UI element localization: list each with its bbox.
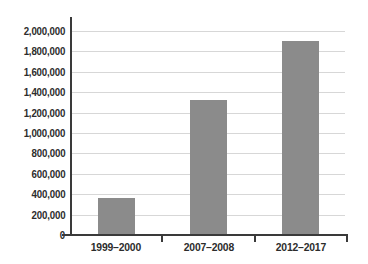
x-tick-label-text: 2012–2017 (276, 241, 326, 254)
x-tick-label: 2012–2017 (256, 241, 346, 254)
y-tick-label: 2,000,000 (0, 25, 65, 37)
y-tick-label: 1,000,000 (0, 127, 65, 139)
x-tick-label-text: 1999–2000 (91, 241, 141, 254)
x-axis-tick (346, 236, 348, 242)
y-tick-label: 800,000 (0, 147, 65, 159)
bar (98, 198, 135, 235)
y-tick-label-text: 600,000 (31, 168, 65, 180)
x-axis-tick (254, 236, 256, 242)
x-axis-tick (161, 236, 163, 242)
bar (282, 41, 319, 235)
y-tick-label-text: 1,600,000 (24, 66, 65, 78)
x-tick-label: 2007–2008 (164, 241, 254, 254)
y-tick-label-text: 800,000 (31, 147, 65, 159)
y-tick-label: 600,000 (0, 168, 65, 180)
y-tick-label-text: 1,000,000 (24, 127, 65, 139)
y-tick-label: 1,800,000 (0, 45, 65, 57)
x-axis-line (62, 234, 348, 236)
gridline (72, 31, 345, 32)
y-tick-label: 1,600,000 (0, 66, 65, 78)
y-tick-label: 1,400,000 (0, 86, 65, 98)
bar-chart: 0200,000400,000600,000800,0001,000,0001,… (0, 0, 368, 264)
y-tick-label-text: 1,200,000 (24, 107, 65, 119)
y-tick-label: 200,000 (0, 209, 65, 221)
y-tick-label: 1,200,000 (0, 107, 65, 119)
y-tick-label-text: 1,400,000 (24, 86, 65, 98)
x-tick-label-text: 2007–2008 (183, 241, 233, 254)
y-tick-label-text: 400,000 (31, 188, 65, 200)
y-axis-line (70, 17, 72, 236)
x-tick-label: 1999–2000 (71, 241, 161, 254)
y-tick-label-text: 2,000,000 (24, 25, 65, 37)
bar (190, 100, 227, 235)
y-tick-label: 0 (0, 229, 65, 241)
y-tick-label: 400,000 (0, 188, 65, 200)
y-tick-label-text: 200,000 (31, 209, 65, 221)
y-tick-label-text: 1,800,000 (24, 45, 65, 57)
